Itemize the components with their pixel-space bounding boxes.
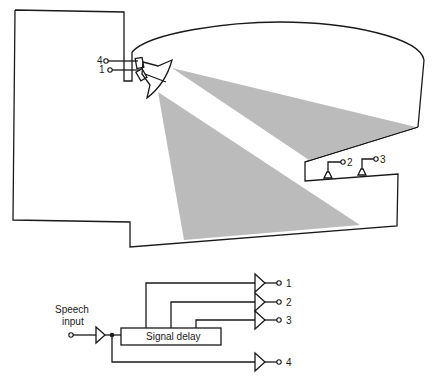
speaker-icon <box>358 169 366 175</box>
speech-input-label-line2: input <box>62 316 84 327</box>
terminal-icon <box>108 68 112 72</box>
output-terminal-icon <box>277 318 281 322</box>
balcony-speakers: 2 3 <box>324 154 386 178</box>
terminal-icon <box>341 160 345 164</box>
output-terminal-icon <box>277 360 281 364</box>
output-label: 2 <box>286 297 292 308</box>
speaker-icon <box>324 172 332 178</box>
output-label: 4 <box>286 357 292 368</box>
terminal-label: 1 <box>99 64 105 75</box>
amplifier-2-icon <box>255 293 265 311</box>
speech-input-label: Speech <box>55 304 89 315</box>
amplifier-3-icon <box>255 311 265 329</box>
output-terminal-icon <box>277 281 281 285</box>
output-terminal-icon <box>277 300 281 304</box>
amplifier-4-icon <box>255 353 265 371</box>
terminal-label: 2 <box>347 157 353 168</box>
input-terminal-icon <box>69 333 73 337</box>
delay-circuit: Speech input Signal delay 1 2 3 4 <box>55 274 292 371</box>
horn-inputs: 4 1 <box>97 55 140 75</box>
input-amplifier-icon <box>96 327 105 343</box>
output-label: 1 <box>286 278 292 289</box>
sound-reinforcement-diagram: 4 1 2 3 Speech input Signal delay <box>0 0 439 385</box>
output-label: 3 <box>286 315 292 326</box>
horn-loudspeaker-icon <box>135 57 172 98</box>
amplifier-1-icon <box>255 274 265 292</box>
terminal-label: 3 <box>380 154 386 165</box>
terminal-icon <box>104 59 108 63</box>
signal-delay-label: Signal delay <box>146 331 200 342</box>
terminal-icon <box>374 157 378 161</box>
